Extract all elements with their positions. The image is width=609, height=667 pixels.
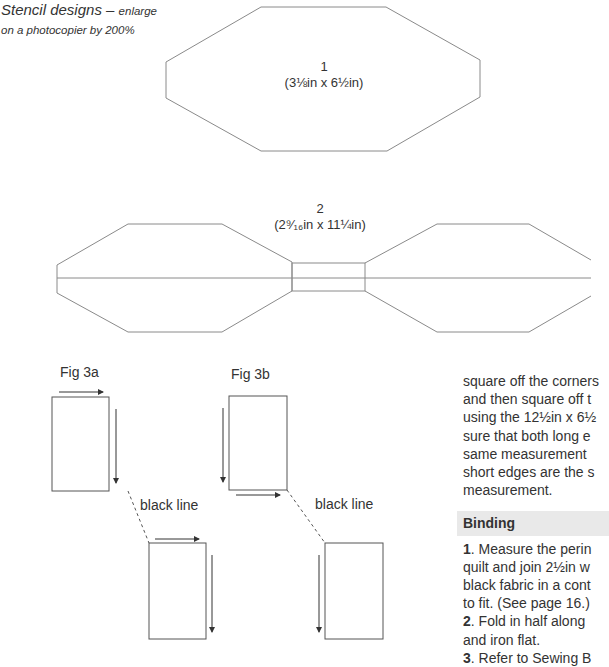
fig3a-rect-top — [52, 397, 109, 491]
fig3b-title: Fig 3b — [231, 366, 270, 382]
step-3: 3. Refer to Sewing B — [463, 649, 603, 667]
fig3b-rect-bottom — [325, 543, 383, 639]
para-line: same measurement — [463, 445, 603, 463]
stencil-1-label: 1 (3⅛in x 6½in) — [274, 59, 374, 91]
instructions-column: square off the corners and then square o… — [463, 372, 603, 667]
fig3a-black-line-label: black line — [140, 497, 198, 513]
stencil-2-label: 2 (2⁹⁄₁₆in x 11¼in) — [260, 201, 380, 233]
step-2: 2. Fold in half along — [463, 612, 603, 630]
para-line: square off the corners — [463, 372, 603, 390]
para-line: short edges are the s — [463, 463, 603, 481]
fig3a-title: Fig 3a — [60, 364, 99, 380]
fig3b-black-line-label: black line — [315, 496, 373, 512]
fig3a-rect-bottom — [149, 543, 206, 639]
para-line: measurement. — [463, 481, 603, 499]
para-line: and then square off t — [463, 390, 603, 408]
step-1-line: to fit. (See page 16.) — [463, 594, 603, 612]
stencil-1-size: (3⅛in x 6½in) — [274, 75, 374, 91]
stencil-2-center-rect — [292, 263, 365, 291]
step-2-line: and iron flat. — [463, 631, 603, 649]
para-line: using the 12½in x 6½ — [463, 408, 603, 426]
binding-heading: Binding — [457, 511, 609, 535]
stencil-2-number: 2 — [260, 201, 380, 217]
step-1-line: black fabric in a cont — [463, 576, 603, 594]
fig3b-rect-top — [229, 396, 287, 490]
stencil-1-number: 1 — [274, 59, 374, 75]
step-1-line: quilt and join 2½in w — [463, 558, 603, 576]
para-line: sure that both long e — [463, 427, 603, 445]
stencil-2-right-octagon — [365, 224, 591, 263]
stencil-2-size: (2⁹⁄₁₆in x 11¼in) — [260, 217, 380, 233]
step-1: 1. Measure the perin — [463, 540, 603, 558]
